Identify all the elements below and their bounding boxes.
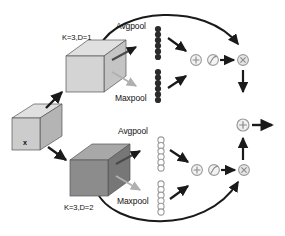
- arrow-top-avgpool-to-add: [168, 38, 186, 51]
- arrow-bottom-maxpool-to-add: [170, 186, 188, 199]
- feature-vector-top-avgpool: [155, 26, 161, 60]
- input-cube-label: x: [23, 138, 27, 147]
- op-add-top: [191, 55, 202, 66]
- op-sigmoid-top: [208, 55, 219, 66]
- arrow-input-to-bottom-branch: [48, 147, 66, 160]
- op-sigmoid-bottom: [209, 165, 220, 176]
- pool-label-bottom-maxpool: Maxpool: [117, 196, 148, 206]
- feature-vector-bottom-avgpool: [158, 137, 164, 171]
- kernel-label-top: K=3,D=1: [62, 33, 91, 42]
- arrow-bottom-avgpool-to-add: [170, 150, 188, 162]
- conv-cube-bottom: [70, 144, 130, 196]
- input-feature-cube: [12, 104, 62, 150]
- feature-vector-bottom-maxpool: [158, 181, 164, 215]
- pool-label-top-maxpool: Maxpool: [115, 93, 146, 103]
- op-add-bottom: [192, 165, 203, 176]
- op-multiply-bottom: [239, 165, 250, 176]
- conv-cube-top: [66, 40, 126, 92]
- arrow-top-maxpool-to-add: [168, 76, 186, 88]
- pool-label-top-avgpool: Avgpool: [116, 21, 146, 31]
- op-multiply-top: [238, 55, 249, 66]
- pool-label-bottom-avgpool: Avgpool: [118, 126, 148, 136]
- diagram-canvas: x K=3,D=1 Avgpool Maxpool K=3,D=2 Avgpoo…: [0, 0, 285, 236]
- kernel-label-bottom: K=3,D=2: [64, 203, 93, 212]
- feature-vector-top-maxpool: [155, 69, 161, 103]
- op-fusion-add: [237, 119, 249, 131]
